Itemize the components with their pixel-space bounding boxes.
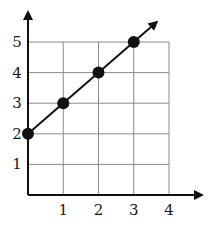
data-point	[93, 67, 105, 79]
y-tick-label: 1	[12, 155, 22, 173]
data-point	[128, 36, 140, 48]
data-series	[22, 22, 157, 140]
y-tick-label: 5	[12, 33, 22, 51]
x-tick-label: 1	[58, 201, 68, 219]
x-tick-label: 4	[164, 201, 174, 219]
x-tick-label: 3	[129, 201, 139, 219]
y-tick-label: 2	[12, 125, 22, 143]
x-tick-label: 2	[94, 201, 104, 219]
data-point	[22, 128, 34, 140]
y-tick-label: 4	[12, 64, 22, 82]
data-point	[57, 97, 69, 109]
line-chart: 123412345	[0, 0, 215, 226]
grid	[28, 42, 169, 195]
y-tick-label: 3	[12, 94, 22, 112]
